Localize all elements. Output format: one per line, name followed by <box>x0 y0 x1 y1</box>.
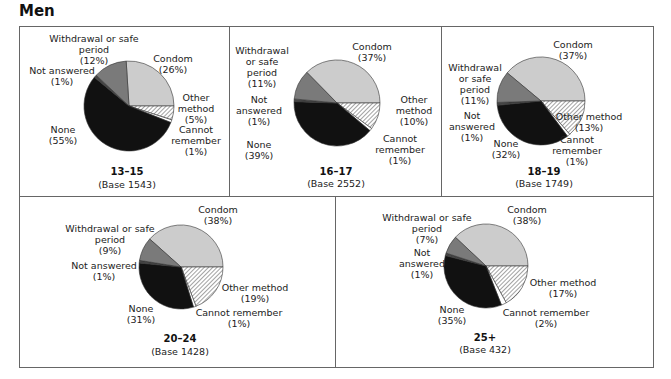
label-other: Other method <box>530 277 597 288</box>
label-withdrawal: period <box>95 234 125 245</box>
label-none: None <box>494 138 519 149</box>
label-other: method <box>396 105 433 116</box>
base-label: (Base 1543) <box>98 179 156 190</box>
base-label: (Base 2552) <box>307 178 365 189</box>
base-label: (Base 1749) <box>515 178 573 189</box>
label-other: Other <box>401 94 428 105</box>
pie-charts: Withdrawal or safeperiod(12%)Not answere… <box>0 0 671 379</box>
label-not-answered: Not answered <box>71 260 137 271</box>
label-not-answered: (1%) <box>461 132 483 143</box>
label-not-answered: (1%) <box>248 116 270 127</box>
label-withdrawal: (11%) <box>461 95 490 106</box>
label-withdrawal: (7%) <box>416 234 438 245</box>
pie-25+ <box>444 224 528 308</box>
label-withdrawal: period <box>79 44 109 55</box>
label-withdrawal: (11%) <box>248 78 277 89</box>
label-cannot: (1%) <box>185 146 207 157</box>
label-other: (19%) <box>241 293 270 304</box>
label-withdrawal: Withdrawal or safe <box>49 33 138 44</box>
label-other: (10%) <box>400 116 429 127</box>
label-cannot: (2%) <box>535 318 557 329</box>
label-condom: (37%) <box>358 52 387 63</box>
pie-20–24 <box>139 225 223 309</box>
age-group-label: 18–19 <box>528 166 561 177</box>
label-cannot: Cannot <box>179 124 213 135</box>
label-not-answered: answered <box>236 105 282 116</box>
age-group-label: 16–17 <box>320 166 353 177</box>
label-cannot: Cannot remember <box>196 307 283 318</box>
label-not-answered: Not <box>464 110 481 121</box>
label-condom: (26%) <box>159 64 188 75</box>
label-not-answered: answered <box>399 258 445 269</box>
age-group-label: 25+ <box>474 332 496 343</box>
label-condom: Condom <box>507 204 547 215</box>
label-other: Other <box>183 92 210 103</box>
label-not-answered: answered <box>449 121 495 132</box>
age-group-label: 13–15 <box>111 166 144 177</box>
base-label: (Base 1428) <box>151 346 209 357</box>
label-cannot: remember <box>375 144 425 155</box>
label-condom: Condom <box>153 53 193 64</box>
label-cannot: remember <box>171 135 221 146</box>
label-withdrawal: or safe <box>246 56 279 67</box>
label-cannot: (1%) <box>566 156 588 167</box>
label-condom: (37%) <box>559 50 588 61</box>
label-withdrawal: Withdrawal or safe <box>65 223 154 234</box>
label-cannot: remember <box>552 145 602 156</box>
label-not-answered: Not <box>251 94 268 105</box>
label-not-answered: Not answered <box>29 65 95 76</box>
label-cannot: (1%) <box>389 155 411 166</box>
label-none: None <box>440 304 465 315</box>
label-none: None <box>247 139 272 150</box>
label-none: None <box>51 124 76 135</box>
label-withdrawal: (9%) <box>99 245 121 256</box>
label-withdrawal: Withdrawal or safe <box>382 212 471 223</box>
label-cannot: (1%) <box>228 318 250 329</box>
label-other: method <box>178 103 215 114</box>
label-cannot: Cannot <box>383 133 417 144</box>
label-none: (55%) <box>49 135 78 146</box>
label-other: (17%) <box>549 288 578 299</box>
label-withdrawal: period <box>247 67 277 78</box>
label-condom: Condom <box>553 39 593 50</box>
label-withdrawal: or safe <box>459 73 492 84</box>
pie-16–17 <box>294 60 380 146</box>
label-none: (35%) <box>438 315 467 326</box>
label-not-answered: (1%) <box>411 269 433 280</box>
label-none: None <box>129 303 154 314</box>
label-none: (32%) <box>492 149 521 160</box>
label-not-answered: (1%) <box>51 76 73 87</box>
label-cannot: Cannot remember <box>503 307 590 318</box>
label-condom: Condom <box>198 204 238 215</box>
label-withdrawal: Withdrawal <box>448 62 502 73</box>
label-other: Other method <box>556 111 623 122</box>
label-other: Other method <box>222 282 289 293</box>
label-not-answered: (1%) <box>93 271 115 282</box>
label-none: (31%) <box>127 314 156 325</box>
label-none: (39%) <box>245 150 274 161</box>
label-condom: Condom <box>352 41 392 52</box>
label-other: (13%) <box>575 122 604 133</box>
label-condom: (38%) <box>513 215 542 226</box>
age-group-label: 20–24 <box>164 333 197 344</box>
label-withdrawal: period <box>412 223 442 234</box>
label-cannot: Cannot <box>560 134 594 145</box>
pie-18–19 <box>497 57 585 145</box>
base-label: (Base 432) <box>459 344 511 355</box>
label-withdrawal: Withdrawal <box>235 45 289 56</box>
label-condom: (38%) <box>204 215 233 226</box>
label-withdrawal: period <box>460 84 490 95</box>
label-not-answered: Not <box>414 247 431 258</box>
